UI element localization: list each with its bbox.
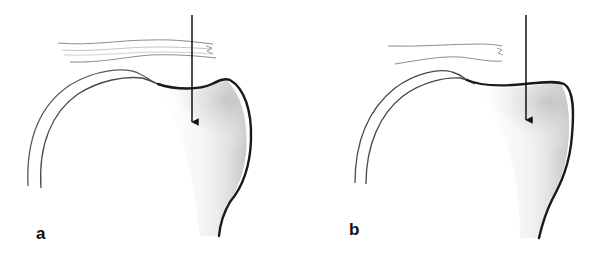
panel-b-tendon <box>388 44 503 64</box>
diagram-figure: a b <box>0 0 595 256</box>
panel-b <box>355 15 573 238</box>
panel-b-label: b <box>349 221 359 238</box>
panel-a-capsule <box>28 70 160 188</box>
diagram-canvas <box>0 0 595 256</box>
panel-b-capsule <box>355 71 475 184</box>
panel-a <box>28 15 251 236</box>
panel-a-label: a <box>36 225 45 242</box>
